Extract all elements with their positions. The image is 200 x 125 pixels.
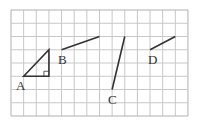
segment-b (62, 37, 100, 50)
label-b: B (58, 52, 67, 67)
label-c: C (108, 92, 117, 107)
grid-diagram: A B C D (0, 0, 200, 125)
label-a: A (16, 78, 26, 93)
label-d: D (148, 52, 157, 67)
grid-lines (11, 10, 188, 116)
